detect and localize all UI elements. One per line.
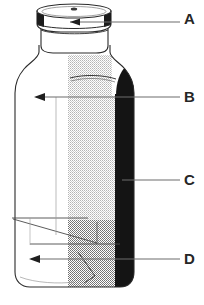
bottle-diagram-svg (0, 0, 204, 305)
callout-label-b: B (184, 89, 195, 104)
callout-label-c: C (184, 172, 195, 187)
bottle-shading-group (68, 52, 140, 290)
bottle-figure: A B C D (0, 0, 204, 305)
callout-label-a: A (184, 11, 195, 26)
cap-center-mark (71, 8, 77, 11)
cap-top-ellipse (37, 4, 111, 18)
dense-stipple-band (68, 220, 115, 290)
callout-label-d: D (184, 251, 195, 266)
figure-caption-partial (0, 298, 204, 305)
bottle-cap (37, 4, 111, 32)
